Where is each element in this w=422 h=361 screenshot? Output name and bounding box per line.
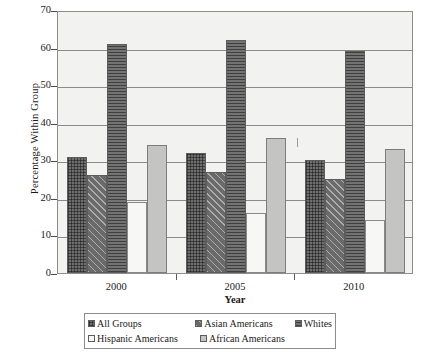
legend-label-all-groups: All Groups	[97, 319, 142, 329]
bar-african-americans-2010	[385, 149, 405, 273]
plot-inner	[58, 12, 412, 273]
bar-whites-2010	[345, 51, 365, 273]
y-tick-label-0: 0	[11, 268, 51, 279]
bar-hispanic-americans-2010	[365, 220, 385, 273]
y-tick-label-60: 60	[11, 43, 51, 54]
y-tick-label-70: 70	[11, 5, 51, 16]
bar-hispanic-americans-2000	[127, 202, 147, 273]
legend-label-whites: Whites	[304, 319, 332, 329]
legend-swatch-whites-icon	[295, 320, 302, 327]
bar-asian-americans-2010	[325, 179, 345, 273]
legend-row-2: Hispanic Americans African Americans	[88, 331, 332, 346]
x-tick-1	[176, 274, 177, 280]
bar-asian-americans-2005	[206, 172, 226, 273]
plot-area	[57, 11, 413, 274]
y-tick-0	[51, 274, 57, 275]
bar-whites-2005	[226, 40, 246, 273]
y-tick-label-50: 50	[11, 80, 51, 91]
legend-label-asian-americans: Asian Americans	[204, 319, 273, 329]
legend-swatch-african-americans-icon	[200, 335, 207, 342]
bar-whites-2000	[107, 44, 127, 273]
legend-swatch-asian-americans-icon	[195, 320, 202, 327]
bar-all-groups-2000	[67, 157, 87, 273]
x-tick-2	[294, 274, 295, 280]
bar-chart: Percentage Within Group 010203040506070 …	[0, 0, 422, 361]
y-tick-label-30: 30	[11, 155, 51, 166]
legend-swatch-all-groups-icon	[88, 320, 95, 327]
x-tick-label-2000: 2000	[76, 281, 156, 292]
bar-all-groups-2005	[186, 153, 206, 273]
bar-asian-americans-2000	[87, 175, 107, 273]
y-axis-title: Percentage Within Group	[29, 19, 40, 259]
legend-label-african-americans: African Americans	[209, 334, 285, 344]
legend-item-all-groups: All Groups	[88, 319, 195, 329]
bar-all-groups-2010	[305, 160, 325, 273]
legend-item-asian-americans: Asian Americans	[195, 319, 295, 329]
y-tick-label-40: 40	[11, 118, 51, 129]
y-tick-label-20: 20	[11, 193, 51, 204]
bar-african-americans-2000	[147, 145, 167, 273]
x-tick-label-2005: 2005	[195, 281, 275, 292]
bar-hispanic-americans-2005	[246, 213, 266, 273]
stray-tick-artifact	[297, 138, 298, 147]
legend: All Groups Asian Americans Whites Hispan…	[84, 313, 336, 349]
x-axis-title: Year	[57, 294, 413, 305]
legend-item-hispanic-americans: Hispanic Americans	[88, 334, 200, 344]
bar-african-americans-2005	[266, 138, 286, 273]
legend-row-1: All Groups Asian Americans Whites	[88, 316, 332, 331]
y-tick-label-10: 10	[11, 230, 51, 241]
legend-swatch-hispanic-americans-icon	[88, 335, 95, 342]
x-tick-label-2010: 2010	[314, 281, 394, 292]
legend-item-african-americans: African Americans	[200, 334, 304, 344]
legend-item-whites: Whites	[295, 319, 332, 329]
legend-label-hispanic-americans: Hispanic Americans	[97, 334, 178, 344]
